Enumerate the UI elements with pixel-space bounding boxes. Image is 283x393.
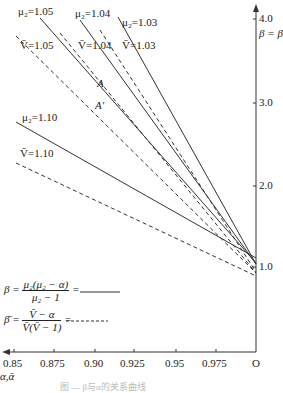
x-axis-arrow-icon [2, 349, 10, 355]
label-v-1.10: V̄=1.10 [20, 148, 53, 159]
chart-plot [0, 0, 283, 393]
label-v-1.05: V̄=1.05 [20, 40, 53, 51]
legend-betabar-eq: = [64, 313, 71, 325]
y-tick-3.0: 3.0 [259, 97, 273, 108]
label-a: A [97, 78, 104, 89]
line-v-1.10 [16, 163, 256, 276]
x-tick-0.925: 0.925 [120, 358, 145, 369]
x-axis-title: α,ᾱ [0, 371, 14, 382]
y-tick-1.0: 1.0 [259, 261, 273, 272]
y-tick-4.0: 4.0 [259, 13, 273, 24]
legend-beta-fraction: μ₂(μ₂ − α) μ₂ − 1 [22, 278, 69, 303]
label-mu-1.10: μ₂=1.10 [22, 112, 57, 123]
legend-beta-denominator: μ₂ − 1 [22, 291, 69, 303]
legend-solid-formula: β = μ₂(μ₂ − α) μ₂ − 1 = [4, 278, 79, 303]
legend-beta-eq: = [72, 283, 79, 295]
legend-beta-lhs: β = [4, 283, 20, 295]
line-mu-1.04 [80, 20, 256, 264]
line-mu-1.10 [16, 122, 256, 258]
label-mu-1.05: μ₂=1.05 [18, 6, 53, 17]
legend-betabar-lhs: β̄ = [4, 313, 20, 325]
line-v-1.03 [100, 30, 256, 272]
x-tick-0.85: 0.85 [3, 358, 22, 369]
label-a-prime: A′ [95, 100, 104, 111]
line-mu-1.05 [40, 18, 256, 263]
legend-betabar-fraction: V̄ − α V̄(V̄ − 1) [22, 308, 61, 333]
y-axis-arrow-icon [253, 4, 259, 12]
label-v-1.04: V̄=1.04 [78, 40, 111, 51]
x-tick-0.95: 0.95 [165, 358, 184, 369]
line-mu-1.03 [118, 17, 256, 264]
legend-betabar-numerator: V̄ − α [22, 308, 61, 321]
x-tick-0.975: 0.975 [202, 358, 227, 369]
legend-dashed-formula: β̄ = V̄ − α V̄(V̄ − 1) = [4, 308, 72, 333]
x-tick-origin: O [252, 358, 260, 369]
label-v-1.03: V̄=1.03 [122, 40, 155, 51]
legend-beta-numerator: μ₂(μ₂ − α) [22, 278, 69, 291]
x-tick-0.875: 0.875 [40, 358, 65, 369]
line-v-1.04 [60, 33, 256, 273]
x-tick-0.90: 0.90 [84, 358, 103, 369]
label-mu-1.03: μ₂=1.03 [122, 17, 157, 28]
label-mu-1.04: μ₂=1.04 [75, 8, 110, 19]
legend-betabar-denominator: V̄(V̄ − 1) [22, 321, 61, 333]
y-axis-title: β = β̄ [259, 28, 283, 39]
figure-caption: 图 — β与α的关系曲线 [60, 380, 146, 393]
y-tick-2.0: 2.0 [259, 180, 273, 191]
